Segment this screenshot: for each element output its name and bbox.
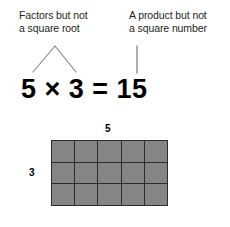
array-cell: [75, 141, 98, 163]
rectangular-array: [51, 140, 168, 206]
array-cell: [144, 162, 167, 184]
array-cell: [98, 141, 121, 163]
array-cell: [75, 162, 98, 184]
array-cell: [52, 162, 75, 184]
array-cell: [98, 162, 121, 184]
array-row: [52, 162, 168, 184]
array-cell: [121, 162, 144, 184]
array-cell: [121, 184, 144, 206]
diagram-canvas: Factors but not a square root A product …: [0, 0, 230, 227]
array-cell: [144, 184, 167, 206]
array-row-count-label: 3: [29, 167, 35, 178]
array-grid: [51, 140, 168, 206]
equation-expression: 5 × 3 = 15: [21, 74, 148, 104]
array-row: [52, 141, 168, 163]
annotation-label-product: A product but not a square number: [129, 9, 207, 35]
array-cell: [52, 141, 75, 163]
array-cell: [52, 184, 75, 206]
annotation-label-factors: Factors but not a square root: [19, 9, 88, 35]
array-grid-body: [52, 141, 168, 206]
array-cell: [98, 184, 121, 206]
array-row: [52, 184, 168, 206]
array-cell: [75, 184, 98, 206]
array-cell: [121, 141, 144, 163]
caret-connector-icon: [33, 46, 76, 72]
array-column-count-label: 5: [105, 123, 111, 134]
array-cell: [144, 141, 167, 163]
